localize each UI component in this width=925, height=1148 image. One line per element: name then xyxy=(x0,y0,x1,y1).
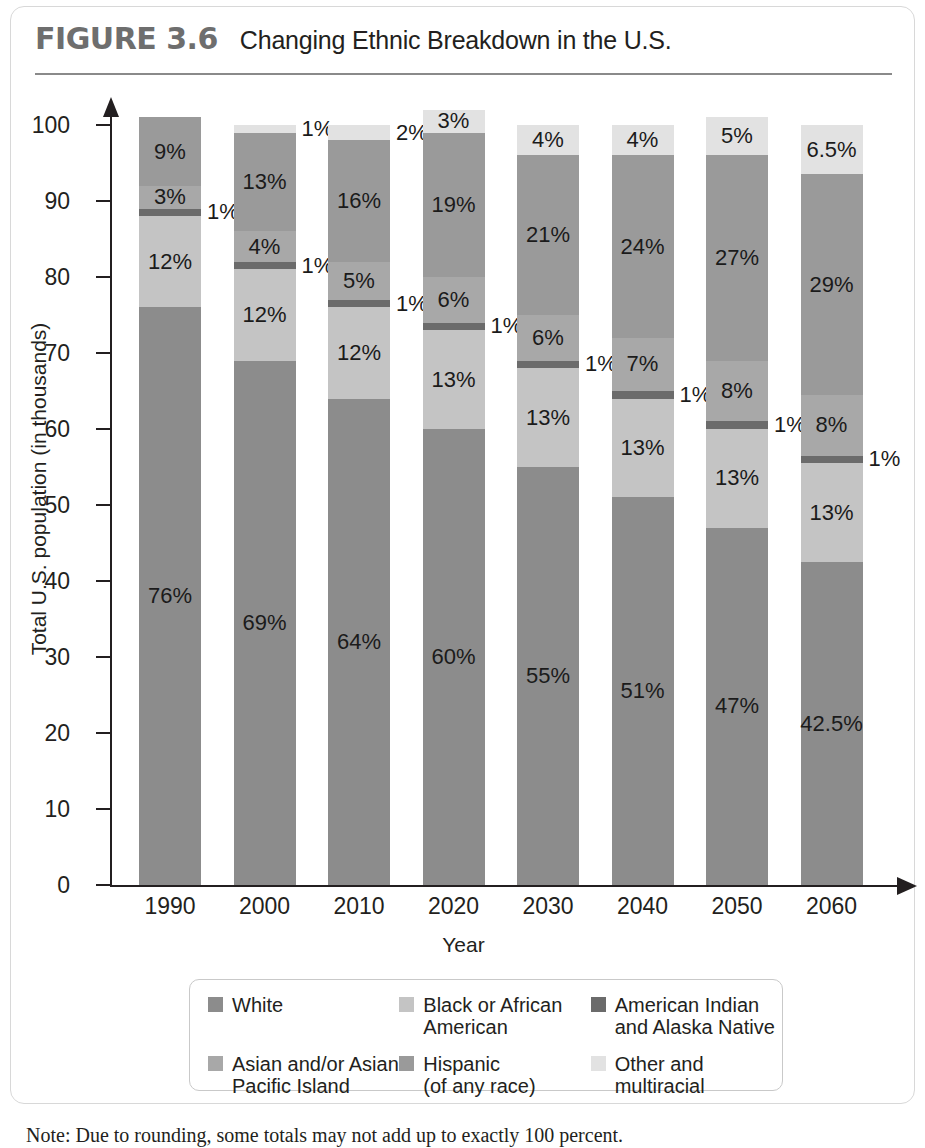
bar-segment-american_indian[interactable] xyxy=(423,323,485,331)
bar-segment-other[interactable]: 4% xyxy=(612,125,674,155)
x-axis-tick-label: 2010 xyxy=(304,893,414,920)
stacked-bar[interactable]: 60%13%1%6%19%3% xyxy=(423,85,485,885)
bar-segment-american_indian[interactable] xyxy=(234,262,296,270)
x-axis-tick-label: 2020 xyxy=(399,893,509,920)
bar-segment-white[interactable]: 47% xyxy=(706,528,768,885)
stacked-bar[interactable]: 64%12%1%5%16%2% xyxy=(328,85,390,885)
bar-segment-hispanic[interactable]: 21% xyxy=(517,155,579,315)
legend-item-white[interactable]: White xyxy=(208,994,399,1039)
bar-segment-black[interactable]: 13% xyxy=(612,399,674,498)
y-axis-tick xyxy=(96,428,110,430)
bar-segment-white[interactable]: 60% xyxy=(423,429,485,885)
chart-plot-area: Total U.S. population (in thousands) 010… xyxy=(11,85,916,885)
y-axis-tick xyxy=(96,656,110,658)
bar-segment-black[interactable]: 12% xyxy=(234,269,296,360)
bar-segment-white[interactable]: 51% xyxy=(612,497,674,885)
legend-item-black[interactable]: Black or African American xyxy=(399,994,590,1039)
bar-segment-hispanic[interactable]: 27% xyxy=(706,155,768,360)
figure-number: FIGURE 3.6 xyxy=(35,21,218,56)
bar-segment-other[interactable] xyxy=(328,125,390,140)
y-axis-tick-label: 100 xyxy=(32,112,70,139)
stacked-bar[interactable]: 76%12%1%3%9% xyxy=(139,85,201,885)
legend-row: Asian and/or Asian Pacific IslandHispani… xyxy=(208,1053,782,1098)
bar-segment-american_indian[interactable] xyxy=(517,361,579,369)
legend-swatch-icon xyxy=(208,997,223,1012)
legend-label: American Indian and Alaska Native xyxy=(615,994,775,1039)
bar-segment-hispanic[interactable]: 29% xyxy=(801,174,863,394)
legend-swatch-icon xyxy=(208,1056,223,1071)
bar-segment-black[interactable]: 13% xyxy=(801,463,863,562)
y-axis-tick-label: 0 xyxy=(57,872,70,899)
y-axis-tick xyxy=(96,808,110,810)
bar-segment-white[interactable]: 64% xyxy=(328,399,390,885)
bar-segment-asian[interactable]: 6% xyxy=(517,315,579,361)
legend-label: White xyxy=(232,994,283,1016)
stacked-bar[interactable]: 47%13%1%8%27%5% xyxy=(706,85,768,885)
bar-segment-hispanic[interactable]: 9% xyxy=(139,117,201,185)
bar-segment-black[interactable]: 13% xyxy=(423,330,485,429)
bar-segment-hispanic[interactable]: 24% xyxy=(612,155,674,337)
y-axis-tick xyxy=(96,884,110,886)
bar-segment-black[interactable]: 12% xyxy=(139,216,201,307)
bar-segment-hispanic[interactable]: 19% xyxy=(423,133,485,277)
y-axis-title: Total U.S. population (in thousands) xyxy=(27,139,51,839)
bar-segment-other[interactable]: 5% xyxy=(706,117,768,155)
bar-segment-other[interactable]: 6.5% xyxy=(801,125,863,174)
legend-item-asian[interactable]: Asian and/or Asian Pacific Island xyxy=(208,1053,399,1098)
bar-segment-hispanic[interactable]: 13% xyxy=(234,133,296,232)
x-axis-tick-label: 2030 xyxy=(493,893,603,920)
y-axis-arrow-icon xyxy=(103,97,119,117)
legend-swatch-icon xyxy=(399,997,414,1012)
bar-segment-asian[interactable]: 7% xyxy=(612,338,674,391)
bar-segment-hispanic[interactable]: 16% xyxy=(328,140,390,262)
bar-segment-asian[interactable]: 3% xyxy=(139,186,201,209)
bar-segment-black[interactable]: 13% xyxy=(517,368,579,467)
bar-segment-other[interactable]: 3% xyxy=(423,110,485,133)
x-axis-tick-label: 2000 xyxy=(210,893,320,920)
bar-segment-asian[interactable]: 5% xyxy=(328,262,390,300)
x-axis-line xyxy=(110,885,900,887)
legend-label: Black or African American xyxy=(423,994,562,1039)
legend-item-american_indian[interactable]: American Indian and Alaska Native xyxy=(591,994,782,1039)
bar-segment-asian[interactable]: 6% xyxy=(423,277,485,323)
figure-container: FIGURE 3.6Changing Ethnic Breakdown in t… xyxy=(10,6,915,1104)
stacked-bar[interactable]: 51%13%1%7%24%4% xyxy=(612,85,674,885)
bar-segment-other[interactable]: 4% xyxy=(517,125,579,155)
figure-title: Changing Ethnic Breakdown in the U.S. xyxy=(240,26,672,55)
bar-segment-label: 1% xyxy=(869,446,901,472)
x-axis-tick-label: 1990 xyxy=(115,893,225,920)
bar-segment-white[interactable]: 42.5% xyxy=(801,562,863,885)
legend-item-other[interactable]: Other and multiracial xyxy=(591,1053,782,1098)
bar-segment-black[interactable]: 13% xyxy=(706,429,768,528)
y-axis-tick xyxy=(96,732,110,734)
legend: WhiteBlack or African AmericanAmerican I… xyxy=(189,979,783,1091)
legend-swatch-icon xyxy=(399,1056,414,1071)
bar-segment-white[interactable]: 55% xyxy=(517,467,579,885)
bar-segment-american_indian[interactable] xyxy=(612,391,674,399)
legend-label: Asian and/or Asian Pacific Island xyxy=(232,1053,399,1098)
legend-label: Hispanic (of any race) xyxy=(423,1053,535,1098)
x-axis-title: Year xyxy=(11,933,916,957)
x-axis-arrow-icon xyxy=(897,877,917,895)
bar-segment-white[interactable]: 69% xyxy=(234,361,296,885)
bar-segment-other[interactable] xyxy=(234,125,296,133)
stacked-bar[interactable]: 42.5%13%1%8%29%6.5% xyxy=(801,85,863,885)
x-axis-tick-label: 2040 xyxy=(588,893,698,920)
y-axis-tick xyxy=(96,200,110,202)
bar-segment-asian[interactable]: 8% xyxy=(801,395,863,456)
bar-segment-white[interactable]: 76% xyxy=(139,307,201,885)
x-axis-tick-label: 2050 xyxy=(682,893,792,920)
header-divider xyxy=(35,73,892,75)
bar-segment-asian[interactable]: 4% xyxy=(234,231,296,261)
bar-segment-asian[interactable]: 8% xyxy=(706,361,768,422)
stacked-bar[interactable]: 69%12%1%4%13%1% xyxy=(234,85,296,885)
legend-label: Other and multiracial xyxy=(615,1053,705,1098)
legend-item-hispanic[interactable]: Hispanic (of any race) xyxy=(399,1053,590,1098)
y-axis-tick xyxy=(96,352,110,354)
stacked-bar[interactable]: 55%13%1%6%21%4% xyxy=(517,85,579,885)
bar-segment-american_indian[interactable] xyxy=(801,456,863,464)
bar-segment-american_indian[interactable] xyxy=(706,421,768,429)
x-axis-tick-label: 2060 xyxy=(777,893,887,920)
bar-segment-american_indian[interactable] xyxy=(328,300,390,308)
bar-segment-black[interactable]: 12% xyxy=(328,307,390,398)
